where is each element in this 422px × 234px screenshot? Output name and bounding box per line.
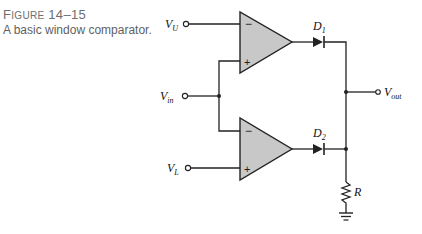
label-vout: Vout	[384, 85, 402, 101]
label-d2: D2	[312, 126, 326, 142]
diode-d2	[313, 143, 324, 155]
label-r: R	[353, 185, 362, 199]
noninverting-input-sign: +	[244, 163, 250, 175]
label-d1: D1	[312, 19, 326, 35]
output-network	[292, 36, 380, 220]
window-comparator-circuit: − + − + VU Vin VL	[0, 0, 422, 234]
label-vu: VU	[165, 17, 179, 33]
label-vl: VL	[167, 161, 179, 177]
junction-dot	[344, 147, 348, 151]
noninverting-input-sign: +	[244, 56, 250, 68]
diode-d1	[313, 36, 324, 48]
junction-dot	[344, 90, 348, 94]
inverting-input-sign: −	[245, 17, 252, 31]
inverting-input-sign: −	[245, 124, 252, 138]
label-vin: Vin	[160, 89, 174, 105]
junction-dot	[217, 94, 221, 98]
terminal-vin	[182, 93, 187, 98]
terminal-vout	[376, 90, 381, 95]
opamp-lower: − +	[240, 118, 292, 180]
resistor-r	[342, 182, 350, 213]
terminal-vu	[183, 21, 188, 26]
opamp-upper: − +	[240, 12, 292, 73]
terminal-vl	[185, 165, 190, 170]
input-wires	[188, 24, 240, 168]
ground-icon	[339, 213, 353, 220]
